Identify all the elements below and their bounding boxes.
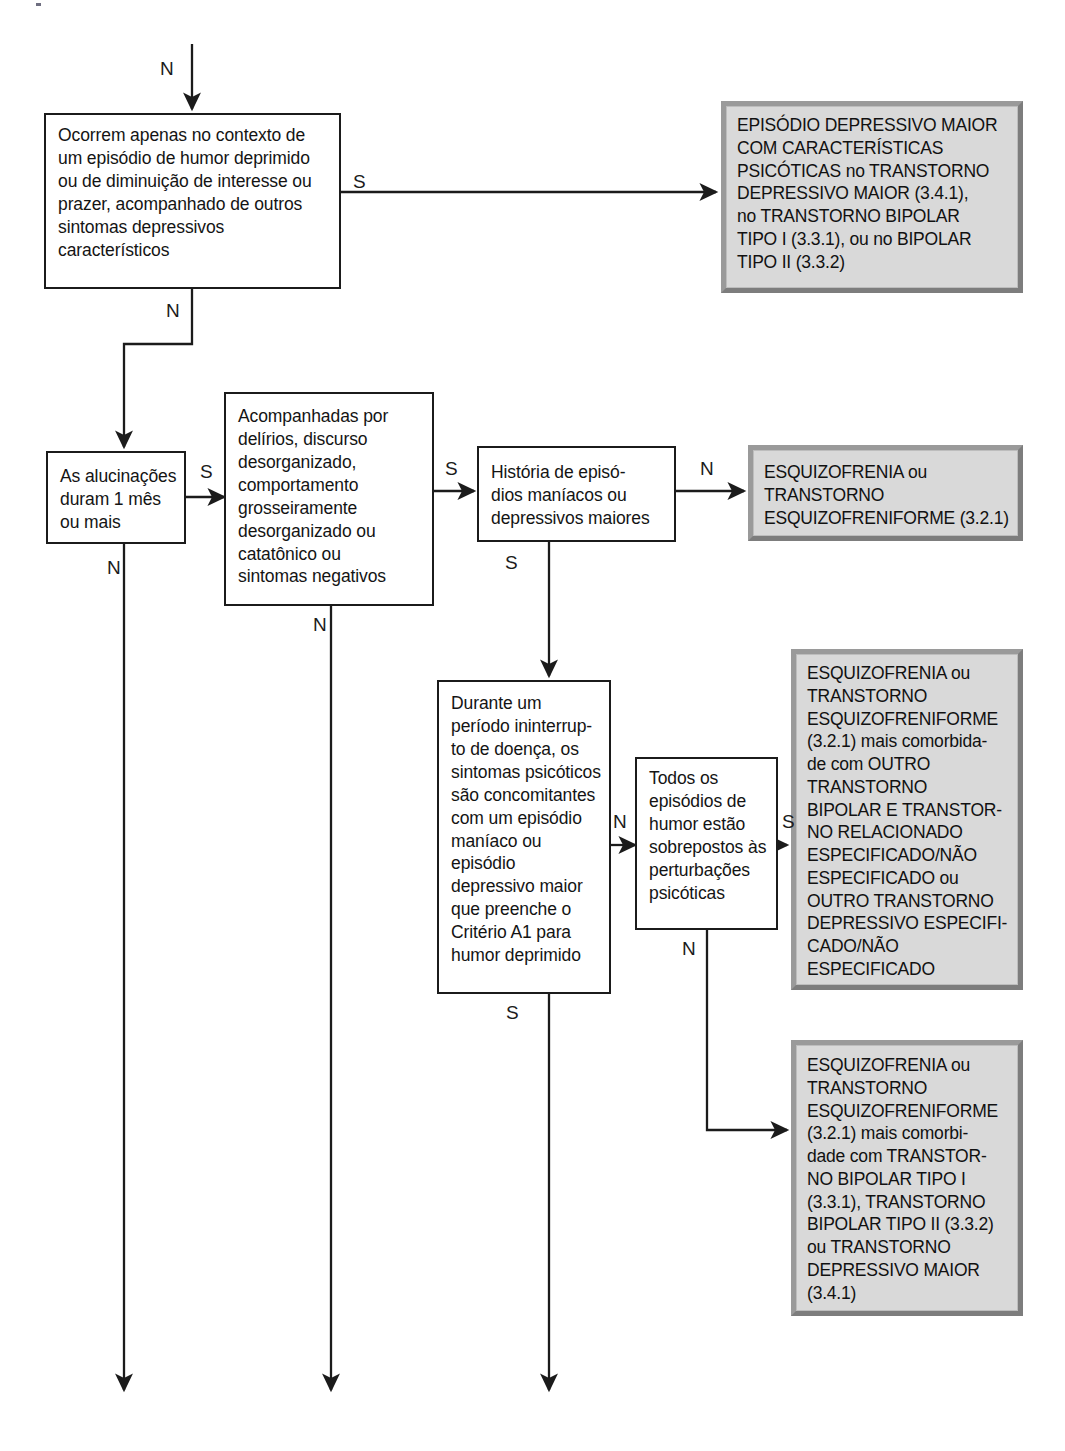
text-line: NO BIPOLAR TIPO I [807, 1168, 1010, 1191]
text-line: TRANSTORNO [764, 484, 1010, 507]
text-line: ou mais [60, 511, 174, 534]
edge-label-duration-yes: S [200, 462, 213, 481]
text-line: Todos os [649, 767, 766, 790]
edge-label-uninterrupted-right: N [613, 812, 627, 831]
text-line: TIPO II (3.3.2) [737, 251, 1010, 274]
text-line: humor deprimido [451, 944, 599, 967]
question-box-all-episodes[interactable]: Todos os episódios de humor estão sobrep… [635, 757, 778, 930]
question-box-accompanied[interactable]: Acompanhadas por delírios, discurso deso… [224, 392, 434, 606]
text-line: com um episódio [451, 807, 599, 830]
edge-label-allepisodes-yes: S [782, 812, 795, 831]
outcome-box-mde-psychotic[interactable]: EPISÓDIO DEPRESSIVO MAIOR COM CARACTERÍS… [721, 101, 1023, 293]
edge-label-accompanied-no: N [313, 615, 327, 634]
text-line: Ocorrem apenas no contexto de [58, 124, 329, 147]
text-line: prazer, acompanhado de outros [58, 193, 329, 216]
text-line: maníaco ou [451, 830, 599, 853]
text-line: (3.2.1) mais comorbi- [807, 1122, 1010, 1145]
text-line: DEPRESSIVO MAIOR (3.4.1), [737, 182, 1010, 205]
outcome-box-schizophrenia-form[interactable]: ESQUIZOFRENIA ou TRANSTORNO ESQUIZOFRENI… [748, 445, 1023, 541]
text-line: sobrepostos às [649, 836, 766, 859]
text-line: PSICÓTICAS no TRANSTORNO [737, 160, 1010, 183]
text-line: desorganizado ou [238, 520, 422, 543]
text-line: BIPOLAR TIPO II (3.3.2) [807, 1213, 1010, 1236]
text-line: TRANSTORNO [807, 685, 1010, 708]
text-line: NO RELACIONADO [807, 821, 1010, 844]
text-line: ESQUIZOFRENIA ou [764, 461, 1010, 484]
text-line: depressivos maiores [491, 507, 664, 530]
text-line: episódio [451, 852, 599, 875]
text-line: Acompanhadas por [238, 405, 422, 428]
text-line: DEPRESSIVO MAIOR [807, 1259, 1010, 1282]
text-line: humor estão [649, 813, 766, 836]
edge-label-mood-yes: S [353, 172, 366, 191]
text-line: sintomas negativos [238, 565, 422, 588]
text-line: ESQUIZOFRENIFORME [807, 708, 1010, 731]
text-line: dade com TRANSTOR- [807, 1145, 1010, 1168]
text-line: um episódio de humor deprimido [58, 147, 329, 170]
text-line: ESQUIZOFRENIA ou [807, 662, 1010, 685]
text-line: ESQUIZOFRENIA ou [807, 1054, 1010, 1077]
text-line: ESPECIFICADO ou [807, 867, 1010, 890]
text-line: OUTRO TRANSTORNO [807, 890, 1010, 913]
text-line: catatônico ou [238, 543, 422, 566]
text-line: (3.4.1) [807, 1282, 1010, 1305]
text-line: CADO/NÃO [807, 935, 1010, 958]
edge-label-uninterrupted-down: S [506, 1003, 519, 1022]
text-line: de com OUTRO [807, 753, 1010, 776]
edge-label-accompanied-yes: S [445, 459, 458, 478]
text-line: depressivo maior [451, 875, 599, 898]
text-line: sintomas depressivos [58, 216, 329, 239]
text-line: BIPOLAR E TRANSTOR- [807, 799, 1010, 822]
edge-label-history-yes: S [505, 553, 518, 572]
text-line: psicóticas [649, 882, 766, 905]
text-line: ESQUIZOFRENIFORME (3.2.1) [764, 507, 1010, 530]
question-box-history[interactable]: História de episó- dios maníacos ou depr… [477, 446, 676, 542]
edge-label-allepisodes-no: N [682, 939, 696, 958]
text-line: TIPO I (3.3.1), ou no BIPOLAR [737, 228, 1010, 251]
text-line: ou de diminuição de interesse ou [58, 170, 329, 193]
outcome-box-schizo-bipolar-mdd[interactable]: ESQUIZOFRENIA ou TRANSTORNO ESQUIZOFRENI… [791, 1040, 1023, 1316]
question-box-duration[interactable]: As alucinações duram 1 mês ou mais [46, 451, 186, 544]
text-line: (3.3.1), TRANSTORNO [807, 1191, 1010, 1214]
edge-label-entry-n: N [160, 59, 174, 78]
text-line: ou TRANSTORNO [807, 1236, 1010, 1259]
text-line: DEPRESSIVO ESPECIFI- [807, 912, 1010, 935]
text-line: As alucinações [60, 465, 174, 488]
text-line: comportamento [238, 474, 422, 497]
edge-mood-no [124, 288, 192, 447]
text-line: ESPECIFICADO [807, 958, 1010, 981]
text-line: são concomitantes [451, 784, 599, 807]
text-line: período ininterrup- [451, 715, 599, 738]
text-line: Critério A1 para [451, 921, 599, 944]
question-box-uninterrupted[interactable]: Durante um período ininterrup- to de doe… [437, 680, 611, 994]
text-line: (3.2.1) mais comorbida- [807, 730, 1010, 753]
text-line: EPISÓDIO DEPRESSIVO MAIOR [737, 114, 1010, 137]
text-line: to de doença, os [451, 738, 599, 761]
outcome-box-schizo-other-bipolar[interactable]: ESQUIZOFRENIA ou TRANSTORNO ESQUIZOFRENI… [791, 649, 1023, 990]
text-line: grosseiramente [238, 497, 422, 520]
text-line: COM CARACTERÍSTICAS [737, 137, 1010, 160]
text-line: duram 1 mês [60, 488, 174, 511]
flowchart-page: Ocorrem apenas no contexto de um episódi… [0, 0, 1065, 1451]
text-line: ESQUIZOFRENIFORME [807, 1100, 1010, 1123]
text-line: Durante um [451, 692, 599, 715]
text-line: episódios de [649, 790, 766, 813]
text-line: TRANSTORNO [807, 1077, 1010, 1100]
edge-label-mood-no: N [166, 301, 180, 320]
text-line: História de episó- [491, 461, 664, 484]
edge-label-history-no: N [700, 459, 714, 478]
text-line: que preenche o [451, 898, 599, 921]
question-box-mood-context[interactable]: Ocorrem apenas no contexto de um episódi… [44, 113, 341, 289]
scan-artifact [36, 3, 41, 6]
text-line: no TRANSTORNO BIPOLAR [737, 205, 1010, 228]
text-line: perturbações [649, 859, 766, 882]
text-line: característicos [58, 239, 329, 262]
text-line: desorganizado, [238, 451, 422, 474]
edge-label-duration-no: N [107, 558, 121, 577]
text-line: delírios, discurso [238, 428, 422, 451]
text-line: sintomas psicóticos [451, 761, 599, 784]
text-line: ESPECIFICADO/NÃO [807, 844, 1010, 867]
text-line: TRANSTORNO [807, 776, 1010, 799]
edge-allepisodes-no [707, 930, 787, 1130]
text-line: dios maníacos ou [491, 484, 664, 507]
